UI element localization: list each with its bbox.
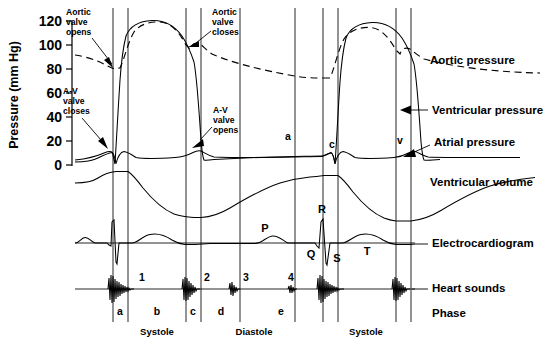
legend-electrocardiogram: Electrocardiogram <box>415 237 534 249</box>
legend-phase: Phase <box>432 307 466 319</box>
legend-heart-sounds: Heart sounds <box>412 282 506 294</box>
ecg-t-wave-label: T <box>364 245 371 257</box>
ecg-p-wave-label: P <box>261 222 268 234</box>
ecg-q-wave-label: Q <box>307 248 316 260</box>
legend-label-aortic-pressure: Aortic pressure <box>430 54 515 66</box>
annotation-aortic-valve-closes: Aortic valve closes <box>188 7 239 47</box>
aortic-valve-closes-line1: Aortic <box>212 7 237 17</box>
y-axis-title: Pressure (mm Hg) <box>7 41 21 149</box>
ventricular-pressure-curve-cycle2 <box>322 22 440 164</box>
y-tick-label-40: 40 <box>46 109 62 125</box>
aortic-valve-closes-line2: valve <box>212 17 234 27</box>
ventricular-volume-curve <box>75 172 338 218</box>
aortic-valve-closes-arrowhead <box>188 41 199 47</box>
y-tick-label-20: 20 <box>46 133 62 149</box>
legend-ventricular-volume: Ventricular volume <box>430 176 533 188</box>
legend-label-atrial-pressure: Atrial pressure <box>434 136 515 148</box>
ventricular-pressure-arrowhead <box>400 106 411 115</box>
heart-sound-4-waveform <box>288 285 297 293</box>
heart-sound-2-waveform-cycle2 <box>392 277 410 301</box>
av-valve-opens-line3: opens <box>213 125 239 135</box>
av-valve-opens-leader <box>200 127 212 140</box>
legend-label-ventricular-pressure: Ventricular pressure <box>432 104 543 116</box>
heart-sound-1-waveform-cycle2 <box>317 275 344 303</box>
atrial-c-wave-label: c <box>329 138 335 150</box>
heart-sound-3-waveform <box>229 282 240 296</box>
av-valve-closes-line3: closes <box>63 106 90 116</box>
y-tick-label-80: 80 <box>46 61 62 77</box>
av-valve-closes-line2: valve <box>63 96 85 106</box>
phase-group-systole-2: Systole <box>349 326 383 337</box>
heart-sound-number-3: 3 <box>243 271 249 283</box>
av-valve-closes-leader <box>82 118 101 140</box>
atrial-pressure-curve-cycle2 <box>322 152 520 164</box>
heart-sound-number-2: 2 <box>204 271 210 283</box>
cardiac-cycle-chart: 120 100 80 60 40 20 0 Pressure (mm Hg) <box>0 0 547 344</box>
phase-letter-c: c <box>190 305 196 317</box>
aortic-pressure-curve <box>75 22 323 78</box>
phase-group-diastole: Diastole <box>236 326 273 337</box>
y-tick-label-100: 100 <box>39 37 63 53</box>
av-valve-closes-line1: A-V <box>63 86 78 96</box>
aortic-valve-closes-leader <box>196 31 211 43</box>
av-valve-opens-line1: A-V <box>213 105 228 115</box>
ecg-trace <box>75 219 415 265</box>
phase-letter-d: d <box>218 305 224 317</box>
aortic-valve-opens-line3: opens <box>66 27 92 37</box>
heart-sound-2-waveform <box>182 277 200 301</box>
phase-letter-e: e <box>278 305 284 317</box>
phase-letter-b: b <box>154 305 160 317</box>
y-tick-label-0: 0 <box>54 157 62 173</box>
legend-ventricular-pressure: Ventricular pressure <box>400 104 543 116</box>
legend-label-heart-sounds: Heart sounds <box>432 282 506 294</box>
heart-sound-number-1: 1 <box>139 271 145 283</box>
phase-group-systole-1: Systole <box>140 326 174 337</box>
phase-letter-a: a <box>117 305 123 317</box>
wiggers-diagram-figure: 120 100 80 60 40 20 0 Pressure (mm Hg) <box>0 0 547 344</box>
av-valve-opens-arrowhead <box>192 139 204 148</box>
ecg-s-wave-label: S <box>333 252 340 264</box>
aortic-valve-closes-line3: closes <box>212 27 239 37</box>
legend-label-electrocardiogram: Electrocardiogram <box>432 237 534 249</box>
av-valve-opens-line2: valve <box>213 115 235 125</box>
aortic-pressure-curve-cycle2 <box>323 27 540 78</box>
atrial-a-wave-label: a <box>285 130 291 142</box>
phase-divider-lines <box>113 8 411 322</box>
atrial-pressure-arrowhead <box>403 149 416 157</box>
heart-sound-number-4: 4 <box>288 271 294 283</box>
y-tick-label-120: 120 <box>39 13 63 29</box>
aortic-valve-opens-line1: Aortic <box>66 7 91 17</box>
legend-label-ventricular-volume: Ventricular volume <box>430 176 533 188</box>
y-tick-label-60: 60 <box>46 85 62 101</box>
atrial-v-wave-label: v <box>397 134 403 146</box>
legend-aortic-pressure: Aortic pressure <box>430 54 515 66</box>
ecg-r-wave-label: R <box>318 203 326 215</box>
atrial-pressure-curve <box>75 151 322 164</box>
aortic-valve-opens-line2: valve <box>66 17 88 27</box>
legend-label-phase: Phase <box>432 307 466 319</box>
